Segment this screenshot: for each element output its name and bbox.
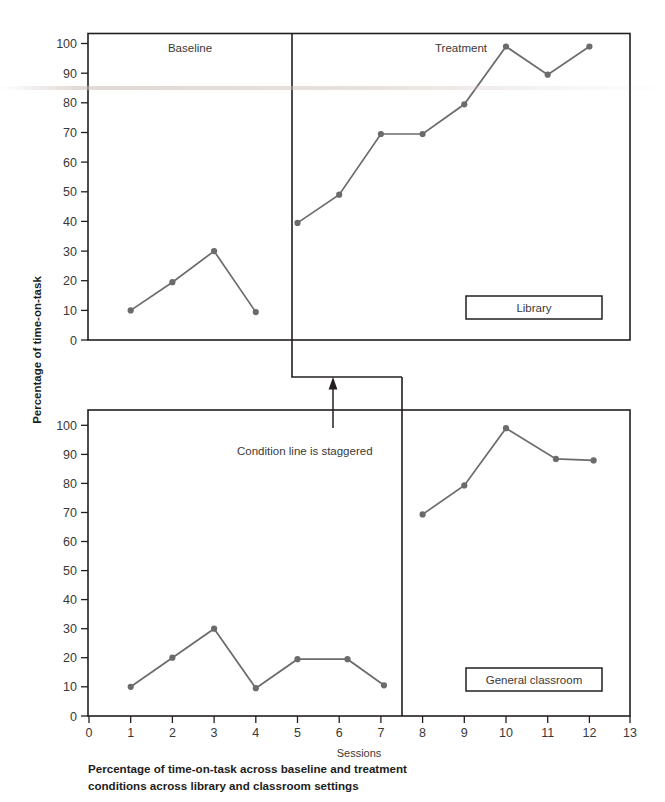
data-point: [420, 131, 426, 137]
ytick-40: 40: [63, 593, 77, 607]
data-point: [381, 682, 387, 688]
data-point: [294, 220, 300, 226]
panel-library: 100 90 80 70 60 50 40 30 20 10 0 Baselin…: [56, 34, 630, 348]
series-treatment-general-classroom-line: [423, 428, 594, 514]
x-axis: 0 1 2 3 4 5 6 7 8 9 10 11 12 13: [86, 716, 637, 740]
data-point: [211, 248, 217, 254]
caption-line-2: conditions across library and classroom …: [88, 779, 359, 792]
panel-library-frame: [88, 34, 630, 341]
data-point: [503, 425, 509, 431]
data-point: [336, 192, 342, 198]
data-point: [211, 626, 217, 632]
ytick-30: 30: [63, 622, 77, 636]
caption-line-1: Percentage of time-on-task across baseli…: [88, 762, 407, 775]
data-point: [591, 457, 597, 463]
data-point: [344, 656, 350, 662]
ytick-20: 20: [63, 274, 77, 288]
ytick-100: 100: [56, 37, 77, 51]
data-point: [294, 656, 300, 662]
data-point: [169, 279, 175, 285]
setting-box-library-label: Library: [516, 302, 551, 314]
phase-label-baseline-library: Baseline: [168, 42, 212, 54]
ytick-30: 30: [63, 245, 77, 259]
ytick-80: 80: [63, 96, 77, 110]
ytick-90: 90: [63, 67, 77, 81]
data-point: [128, 684, 134, 690]
data-point: [420, 511, 426, 517]
data-point: [553, 456, 559, 462]
ytick-50: 50: [63, 185, 77, 199]
xtick-9: 9: [461, 726, 468, 740]
data-point: [253, 309, 259, 315]
xtick-13: 13: [623, 726, 637, 740]
ytick-100: 100: [56, 419, 77, 433]
xtick-4: 4: [252, 726, 259, 740]
xtick-5: 5: [294, 726, 301, 740]
ytick-20: 20: [63, 651, 77, 665]
xtick-2: 2: [169, 726, 176, 740]
ytick-10: 10: [63, 680, 77, 694]
data-point: [461, 482, 467, 488]
arrow-head-icon: [329, 377, 338, 390]
data-point: [378, 131, 384, 137]
annotation-arrow: [329, 377, 338, 428]
ytick-80: 80: [63, 477, 77, 491]
staggered-condition-line: [291, 340, 402, 410]
ytick-40: 40: [63, 215, 77, 229]
xtick-10: 10: [499, 726, 513, 740]
series-treatment-general-classroom: [420, 425, 597, 517]
xtick-12: 12: [582, 726, 596, 740]
ytick-70: 70: [63, 506, 77, 520]
data-point: [461, 101, 467, 107]
ytick-90: 90: [63, 448, 77, 462]
xtick-11: 11: [541, 726, 554, 740]
ytick-0: 0: [70, 334, 77, 348]
xtick-7: 7: [377, 726, 384, 740]
setting-box-library: Library: [466, 296, 602, 319]
xtick-3: 3: [211, 726, 218, 740]
setting-box-general-classroom: General classroom: [466, 668, 602, 691]
annotation-label: Condition line is staggered: [237, 445, 373, 457]
x-axis-title: Sessions: [337, 747, 382, 759]
data-point: [586, 43, 592, 49]
xtick-1: 1: [127, 726, 134, 740]
data-point: [128, 307, 134, 313]
xtick-8: 8: [419, 726, 426, 740]
data-point: [545, 72, 551, 78]
ytick-60: 60: [63, 156, 77, 170]
panel-library-y-axis: 100 90 80 70 60 50 40 30 20 10 0: [56, 37, 88, 348]
xtick-0: 0: [86, 726, 93, 740]
data-point: [253, 685, 259, 691]
ytick-70: 70: [63, 126, 77, 140]
ytick-60: 60: [63, 535, 77, 549]
y-axis-title: Percentage of time-on-task: [31, 276, 43, 424]
ytick-0: 0: [70, 710, 77, 724]
data-point: [503, 43, 509, 49]
panel-general-classroom-y-axis: 100 90 80 70 60 50 40 30 20 10 0: [56, 419, 88, 724]
setting-box-general-classroom-label: General classroom: [486, 674, 583, 686]
ytick-50: 50: [63, 564, 77, 578]
figure-canvas: 100 90 80 70 60 50 40 30 20 10 0 Baselin…: [0, 0, 665, 802]
data-point: [169, 655, 175, 661]
single-case-design-chart: 100 90 80 70 60 50 40 30 20 10 0 Baselin…: [0, 0, 665, 802]
phase-label-treatment-library: Treatment: [435, 42, 488, 54]
series-baseline-general-classroom: [128, 626, 388, 692]
xtick-6: 6: [336, 726, 343, 740]
ytick-10: 10: [63, 304, 77, 318]
panel-general-classroom: 100 90 80 70 60 50 40 30 20 10 0: [56, 410, 637, 759]
